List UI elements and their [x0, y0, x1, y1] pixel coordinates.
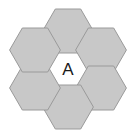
- hexagon-cluster-canvas: A: [0, 0, 136, 138]
- hexagon-cells-group: A: [10, 9, 127, 129]
- hexagon-cluster-figure: A: [0, 0, 136, 138]
- hexagon-label-center: A: [62, 60, 74, 79]
